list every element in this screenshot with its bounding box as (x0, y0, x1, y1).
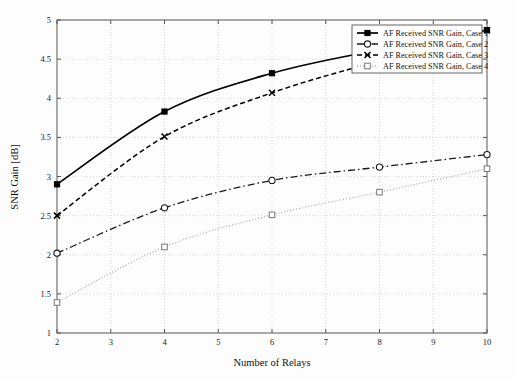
x-tick-label: 4 (162, 337, 167, 347)
x-tick-label: 5 (216, 337, 220, 347)
x-tick-label: 10 (483, 337, 492, 347)
x-tick-label: 9 (431, 337, 435, 347)
data-point-marker-series-4 (269, 212, 275, 218)
y-tick-label: 3.5 (40, 132, 51, 142)
data-point-marker-series-2 (376, 164, 382, 170)
data-point-marker-series-2 (269, 177, 275, 183)
data-point-marker-series-1 (54, 182, 59, 187)
legend-label-2: AF Received SNR Gain, Case 2 (383, 40, 488, 49)
data-point-marker-series-4 (377, 189, 383, 195)
y-tick-label: 1.5 (40, 289, 51, 299)
data-point-marker-series-4 (54, 300, 60, 306)
data-point-marker-series-1 (162, 109, 167, 114)
data-point-marker-series-4 (365, 63, 371, 69)
data-point-marker-series-4 (484, 166, 490, 172)
data-point-marker-series-2 (364, 41, 370, 47)
legend-label-1: AF Received SNR Gain, Case 1 (383, 29, 488, 38)
data-point-marker-series-1 (269, 71, 274, 76)
y-tick-label: 4 (47, 93, 52, 103)
chart-figure: 234567891011.522.533.544.55 AF Received … (0, 0, 514, 379)
legend-label-4: AF Received SNR Gain, Case 4 (383, 62, 488, 71)
y-axis-title: SNR Gain [dB] (9, 144, 20, 209)
legend-label-3: AF Received SNR Gain, Case 3 (383, 51, 488, 60)
data-point-marker-series-2 (484, 151, 490, 157)
y-tick-label: 4.5 (40, 54, 51, 64)
data-point-marker-series-2 (161, 205, 167, 211)
data-point-marker-series-1 (365, 30, 370, 35)
x-tick-label: 2 (55, 337, 59, 347)
y-tick-label: 2 (47, 250, 51, 260)
y-tick-label: 5 (47, 15, 51, 25)
y-tick-label: 1 (47, 328, 51, 338)
x-tick-label: 8 (377, 337, 381, 347)
chart-legend[interactable]: AF Received SNR Gain, Case 1AF Received … (352, 25, 488, 73)
x-tick-label: 7 (324, 337, 328, 347)
data-point-marker-series-2 (54, 250, 60, 256)
data-point-marker-series-4 (162, 244, 168, 250)
x-axis-title: Number of Relays (234, 357, 311, 368)
snr-gain-line-chart: 234567891011.522.533.544.55 AF Received … (0, 0, 514, 379)
x-tick-label: 6 (270, 337, 274, 347)
x-tick-label: 3 (109, 337, 113, 347)
y-tick-label: 3 (47, 172, 51, 182)
y-tick-label: 2.5 (40, 211, 51, 221)
